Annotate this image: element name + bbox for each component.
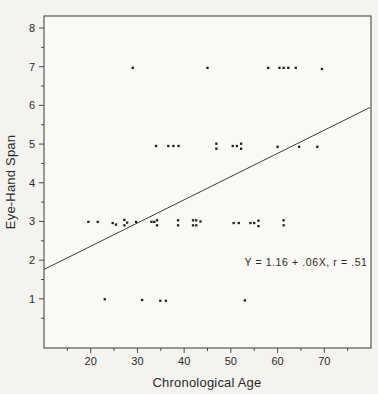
y-tick-label: 2: [29, 254, 35, 266]
data-point: [132, 67, 134, 69]
data-point: [115, 223, 117, 225]
data-point: [215, 143, 217, 145]
data-point: [192, 219, 194, 221]
data-point: [233, 222, 235, 224]
data-point: [206, 67, 208, 69]
y-tick-label: 3: [29, 215, 35, 227]
data-point: [150, 221, 152, 223]
x-tick-label: 60: [271, 355, 283, 367]
data-point: [278, 67, 280, 69]
data-point: [123, 219, 125, 221]
y-tick-label: 4: [29, 177, 35, 189]
data-point: [240, 148, 242, 150]
x-tick-label: 30: [131, 355, 143, 367]
annotation-text: Y = 1.16 + .06X, r = .51: [244, 256, 367, 268]
data-point: [141, 299, 143, 301]
data-point: [282, 219, 284, 221]
data-point: [112, 222, 114, 224]
data-point: [316, 146, 318, 148]
scatter-figure: 20304050607012345678 Eye-Hand Span Chron…: [0, 0, 378, 394]
data-point: [167, 145, 169, 147]
data-point: [153, 221, 155, 223]
data-point: [267, 67, 269, 69]
data-point: [240, 143, 242, 145]
data-point: [199, 220, 201, 222]
y-tick-label: 7: [29, 61, 35, 73]
data-point: [249, 222, 251, 224]
y-tick-label: 1: [29, 293, 35, 305]
data-point: [232, 145, 234, 147]
data-point: [123, 224, 125, 226]
data-point: [126, 221, 128, 223]
x-tick-label: 20: [85, 355, 97, 367]
scatter-plot-canvas: 20304050607012345678 Eye-Hand Span Chron…: [0, 0, 378, 394]
data-point: [87, 221, 89, 223]
data-point: [155, 145, 157, 147]
data-point: [244, 299, 246, 301]
data-point: [236, 145, 238, 147]
data-point: [159, 300, 161, 302]
data-point: [257, 225, 259, 227]
x-tick-label: 40: [178, 355, 190, 367]
data-point: [165, 300, 167, 302]
data-point: [156, 219, 158, 221]
plot-area: [44, 16, 371, 348]
data-point: [287, 67, 289, 69]
y-tick-label: 5: [29, 138, 35, 150]
data-point: [135, 221, 137, 223]
data-point: [195, 224, 197, 226]
data-point: [177, 145, 179, 147]
data-point: [177, 219, 179, 221]
data-point: [192, 224, 194, 226]
data-point: [172, 145, 174, 147]
data-point: [195, 219, 197, 221]
x-axis-label: Chronological Age: [153, 375, 262, 390]
data-point: [156, 224, 158, 226]
y-tick-label: 6: [29, 99, 35, 111]
data-point: [321, 68, 323, 70]
data-point: [298, 146, 300, 148]
data-point: [282, 224, 284, 226]
data-point: [253, 222, 255, 224]
data-point: [215, 148, 217, 150]
data-point: [276, 146, 278, 148]
x-tick-label: 70: [318, 355, 330, 367]
data-point: [257, 220, 259, 222]
x-tick-label: 50: [225, 355, 237, 367]
y-axis-label: Eye-Hand Span: [3, 135, 18, 229]
y-tick-label: 8: [29, 22, 35, 34]
data-point: [282, 67, 284, 69]
data-point: [104, 298, 106, 300]
data-point: [238, 222, 240, 224]
data-point: [177, 224, 179, 226]
data-point: [97, 221, 99, 223]
data-point: [295, 67, 297, 69]
